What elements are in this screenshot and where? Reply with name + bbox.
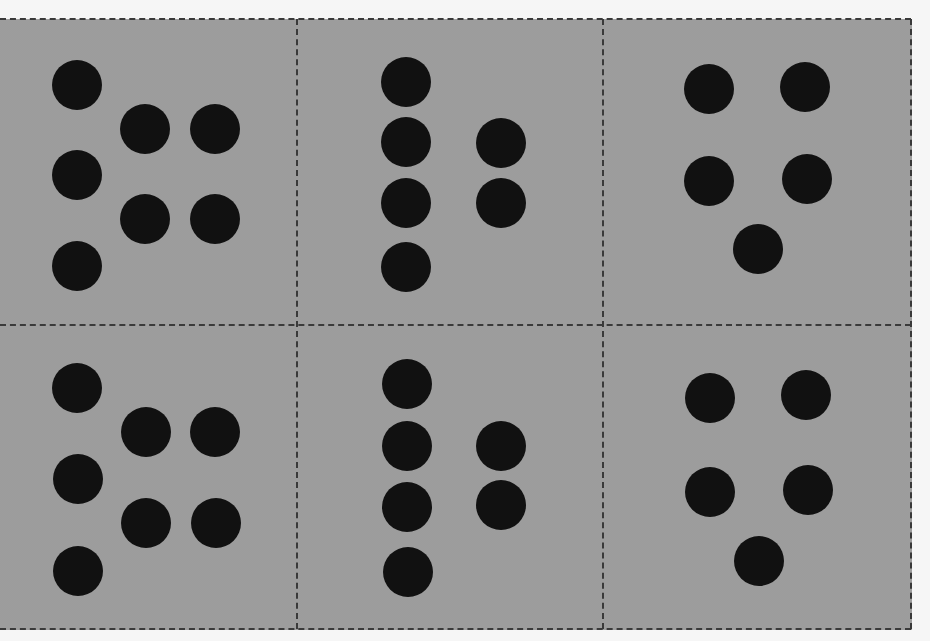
dot	[121, 498, 171, 548]
dot	[476, 178, 526, 228]
dot	[685, 373, 735, 423]
right-cut-line	[910, 19, 912, 629]
dot	[733, 224, 783, 274]
dot	[476, 421, 526, 471]
dot	[52, 241, 102, 291]
dot	[476, 118, 526, 168]
dot	[476, 480, 526, 530]
dot	[120, 104, 170, 154]
dot	[383, 547, 433, 597]
dot	[782, 154, 832, 204]
vertical-cut-line-2	[602, 19, 604, 629]
dot	[190, 407, 240, 457]
dot	[780, 62, 830, 112]
dot	[734, 536, 784, 586]
top-cut-line	[0, 18, 911, 20]
dot	[52, 150, 102, 200]
dot	[783, 465, 833, 515]
dot	[52, 363, 102, 413]
dot	[684, 156, 734, 206]
dot	[52, 60, 102, 110]
dot	[381, 178, 431, 228]
dot	[191, 498, 241, 548]
dot	[781, 370, 831, 420]
dot	[53, 546, 103, 596]
dot	[382, 359, 432, 409]
middle-horizontal-cut-line	[0, 324, 911, 326]
dot	[381, 242, 431, 292]
bottom-cut-line	[0, 628, 911, 630]
dot	[381, 57, 431, 107]
dot	[190, 104, 240, 154]
dot	[685, 467, 735, 517]
dot	[382, 421, 432, 471]
dot	[382, 482, 432, 532]
dot	[121, 407, 171, 457]
dot	[381, 117, 431, 167]
dot	[684, 64, 734, 114]
dot	[190, 194, 240, 244]
dot	[120, 194, 170, 244]
vertical-cut-line-1	[296, 19, 298, 629]
dot	[53, 454, 103, 504]
